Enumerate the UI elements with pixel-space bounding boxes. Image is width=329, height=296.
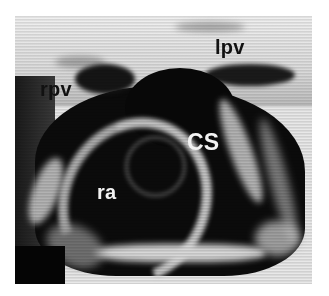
tissue-streak [175,22,245,32]
label-cs: CS [187,131,219,154]
lower-tissue [95,244,265,262]
label-lpv: lpv [215,37,245,57]
inner-ring [125,136,186,197]
lower-right-tissue [255,221,300,256]
label-ra: ra [97,182,116,202]
ultrasound-image [15,16,312,284]
bottom-left-dark [15,246,65,284]
label-rpv: rpv [40,79,72,99]
rpv-vessel [75,64,135,94]
